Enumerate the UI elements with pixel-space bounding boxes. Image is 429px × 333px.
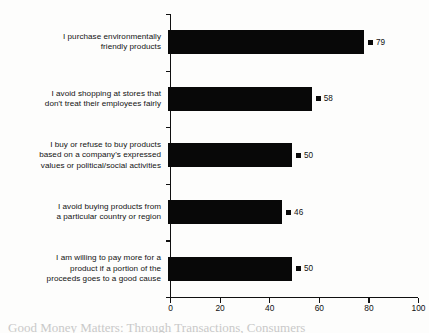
chart-row: I am willing to pay more for a product i…	[0, 240, 429, 297]
x-axis-label: 60	[315, 303, 324, 313]
chart-row: I avoid shopping at stores that don't tr…	[0, 71, 429, 128]
x-axis-tick	[269, 298, 270, 303]
bar-value: 50	[304, 151, 313, 160]
value-label-group: 50	[296, 264, 313, 273]
bar[interactable]	[168, 143, 292, 167]
bar-zone: 46	[168, 184, 429, 241]
figure-caption-text: Good Money Matters: Through Transactions…	[8, 322, 308, 333]
y-axis-tick	[166, 240, 171, 241]
bar-zone: 58	[168, 71, 429, 128]
value-label-group: 46	[286, 208, 303, 217]
category-label: I buy or refuse to buy products based on…	[0, 140, 168, 171]
bar-zone: 50	[168, 240, 429, 297]
bar[interactable]	[168, 200, 282, 224]
x-axis-tick	[220, 298, 221, 303]
bar-value: 79	[376, 38, 385, 47]
bar[interactable]	[168, 87, 312, 111]
chart-plot-rows: I purchase environmentally friendly prod…	[0, 14, 429, 297]
bar-zone: 50	[168, 127, 429, 184]
y-axis-tick	[166, 184, 171, 185]
x-axis-label: 40	[265, 303, 274, 313]
square-marker-icon	[296, 266, 301, 271]
y-axis-tick	[166, 127, 171, 128]
bar[interactable]	[168, 257, 292, 281]
bar-value: 58	[324, 94, 333, 103]
category-label: I purchase environmentally friendly prod…	[0, 32, 168, 52]
square-marker-icon	[296, 153, 301, 158]
x-axis-tick	[418, 298, 419, 303]
x-axis-label: 0	[168, 303, 173, 313]
y-axis-tick	[166, 14, 171, 15]
square-marker-icon	[316, 96, 321, 101]
square-marker-icon	[368, 40, 373, 45]
chart-row: I purchase environmentally friendly prod…	[0, 14, 429, 71]
bar[interactable]	[168, 30, 364, 54]
category-label: I avoid shopping at stores that don't tr…	[0, 89, 168, 109]
bar-value: 46	[294, 208, 303, 217]
bar-zone: 79	[168, 14, 429, 71]
x-axis-tick	[319, 298, 320, 303]
value-label-group: 79	[368, 38, 385, 47]
figure-caption-clipped: Good Money Matters: Through Transactions…	[8, 322, 308, 333]
bar-chart: I purchase environmentally friendly prod…	[0, 0, 429, 333]
value-label-group: 50	[296, 151, 313, 160]
x-axis-tick	[368, 298, 369, 303]
x-axis-label: 20	[215, 303, 224, 313]
x-axis-tick	[170, 298, 171, 303]
x-axis-label: 80	[364, 303, 373, 313]
chart-row: I buy or refuse to buy products based on…	[0, 127, 429, 184]
chart-row: I avoid buying products from a particula…	[0, 184, 429, 241]
y-axis-tick	[166, 71, 171, 72]
x-axis-label: 100	[412, 303, 426, 313]
square-marker-icon	[286, 210, 291, 215]
bar-value: 50	[304, 264, 313, 273]
category-label: I am willing to pay more for a product i…	[0, 253, 168, 284]
category-label: I avoid buying products from a particula…	[0, 202, 168, 222]
value-label-group: 58	[316, 94, 333, 103]
